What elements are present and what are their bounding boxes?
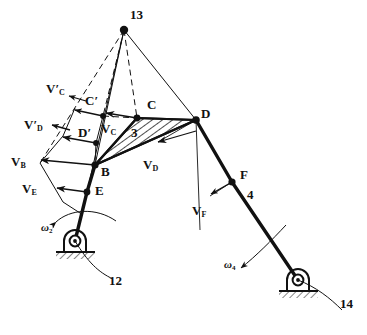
label-point-c: C (147, 98, 156, 111)
label-ve: VE (22, 182, 37, 197)
node-d-prime (93, 140, 99, 146)
crank-2-lower (75, 192, 87, 241)
label-vd-sym: V (143, 157, 152, 172)
label-point-c-prime: C′ (85, 94, 98, 107)
vector-vc-arrow (106, 113, 137, 118)
link-4-upper (196, 120, 232, 182)
node-e (84, 189, 91, 196)
label-vf-sub: F (201, 210, 206, 219)
linkage-bars (75, 120, 298, 280)
vector-c-prime-ray (75, 110, 103, 116)
vector-ve-arrow (57, 188, 87, 192)
omega2-arc (56, 211, 116, 222)
label-ve-sym: V (22, 181, 31, 196)
label-omega2-sym: ω (41, 221, 49, 233)
node-d (192, 116, 200, 124)
link-4-lower (232, 182, 298, 280)
label-vc-sub: C (110, 128, 116, 137)
label-vf: VF (192, 204, 206, 219)
label-instant-center-13: 13 (130, 8, 143, 21)
label-vc: VC (101, 122, 116, 137)
label-ground-14: 14 (340, 297, 353, 310)
label-ve-sub: E (31, 188, 36, 197)
crank-2-upper (87, 165, 95, 192)
label-omega4: ω4 (224, 259, 235, 272)
label-vb-sub: B (20, 161, 25, 170)
node-c (134, 115, 141, 122)
label-point-b: B (101, 165, 110, 178)
label-vb-sym: V (11, 154, 20, 169)
vector-vc-prime-arrow (69, 96, 86, 101)
label-vc-prime-sym: V (46, 81, 55, 96)
label-point-e: E (95, 184, 104, 197)
label-omega2-sub: 2 (49, 227, 53, 235)
label-link-4: 4 (247, 188, 254, 201)
omega-arcs (56, 211, 286, 268)
node-f (228, 178, 235, 185)
node-b (91, 161, 98, 168)
label-vd: VD (143, 158, 158, 173)
node-13 (120, 26, 128, 34)
label-vd-prime-sub: D (37, 124, 43, 133)
label-ground-12: 12 (109, 274, 122, 287)
label-omega4-sym: ω (224, 258, 232, 270)
ground-pivot-right (279, 269, 318, 298)
node-c-prime (100, 113, 106, 119)
ground-arc-12 (75, 241, 113, 279)
figure-canvas: 13 C C′ D D′ B E F 3 4 12 14 V′C V′D VB … (0, 0, 367, 335)
label-vc-sym: V (101, 121, 110, 136)
label-omega2: ω2 (41, 222, 52, 235)
label-vf-sym: V (192, 203, 201, 218)
linkage-diagram-svg (0, 0, 367, 335)
label-point-d-prime: D′ (78, 126, 91, 139)
vector-vb-arrow (41, 160, 95, 165)
label-vd-prime: V′D (24, 118, 43, 133)
label-link-3: 3 (131, 126, 138, 139)
label-omega4-sub: 4 (232, 264, 236, 272)
label-vc-prime: V′C (46, 82, 65, 97)
label-vb: VB (11, 155, 26, 170)
label-vd-prime-sym: V (24, 117, 33, 132)
label-vd-sub: D (152, 164, 158, 173)
label-point-d: D (201, 107, 210, 120)
label-point-f: F (240, 168, 248, 181)
label-vc-prime-sub: C (59, 88, 65, 97)
